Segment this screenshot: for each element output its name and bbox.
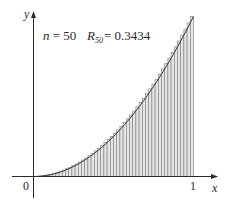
y-axis-label: y: [23, 7, 30, 21]
riemann-rectangle: [168, 58, 171, 176]
annotation-r: R50= 0.3434: [86, 28, 151, 45]
riemann-rectangle: [94, 151, 97, 177]
riemann-sum-figure: y x 0 1 n = 50 R50= 0.3434: [0, 0, 229, 207]
x-axis-arrow-icon: [211, 174, 218, 179]
riemann-rectangle: [149, 89, 152, 177]
r-subscript: 50: [95, 36, 103, 45]
riemann-rectangle: [104, 143, 107, 177]
riemann-rectangle: [162, 69, 165, 177]
r-symbol: R: [86, 28, 95, 43]
riemann-rectangle: [101, 146, 104, 177]
riemann-rectangle: [91, 153, 94, 176]
riemann-rectangle: [158, 74, 161, 176]
chart-canvas: y x 0 1 n = 50 R50= 0.3434: [0, 0, 229, 207]
riemann-rectangle: [107, 140, 110, 177]
riemann-rectangle: [190, 17, 193, 177]
riemann-rectangle: [130, 115, 133, 177]
riemann-rectangle: [146, 94, 149, 177]
riemann-rectangle: [82, 160, 85, 176]
annotation-n: n = 50: [43, 28, 76, 43]
riemann-rectangle: [184, 29, 187, 176]
x-tick-label-1: 1: [190, 179, 196, 193]
riemann-rectangle: [152, 84, 155, 176]
riemann-rectangle: [85, 158, 88, 177]
riemann-rectangle: [88, 156, 91, 177]
riemann-rectangle: [110, 137, 113, 177]
r-value: = 0.3434: [104, 28, 151, 43]
x-axis-label: x: [211, 181, 218, 195]
riemann-rectangle: [114, 133, 117, 176]
riemann-rectangle: [126, 119, 129, 177]
riemann-rectangle: [139, 103, 142, 177]
riemann-rectangle: [98, 148, 101, 176]
riemann-rectangle: [136, 107, 139, 177]
riemann-rectangle: [120, 126, 123, 176]
riemann-rectangle: [187, 23, 190, 177]
riemann-rectangle: [174, 47, 177, 177]
riemann-rectangle: [117, 130, 120, 177]
riemann-rectangle: [178, 41, 181, 176]
x-tick-label-0: 0: [23, 179, 29, 193]
riemann-rectangle: [123, 123, 126, 177]
riemann-rectangle: [181, 35, 184, 176]
riemann-rectangle: [155, 79, 158, 176]
riemann-rectangle: [165, 64, 168, 177]
riemann-rectangle: [171, 53, 174, 177]
y-axis-arrow-icon: [31, 11, 36, 18]
riemann-rectangle: [142, 98, 145, 176]
riemann-rectangle: [133, 111, 136, 177]
